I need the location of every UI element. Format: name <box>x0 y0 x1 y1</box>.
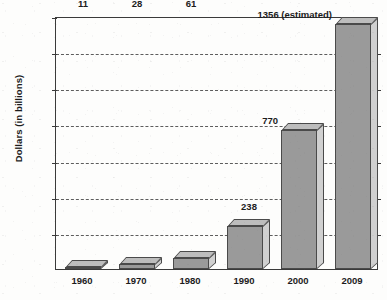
bar-1990-side <box>263 220 270 269</box>
plot-area: 1400 1200 1000 800 600 400 200 <box>55 17 378 270</box>
bar-1960-front <box>65 267 101 269</box>
x-tick-label-1970: 1970 <box>125 275 146 286</box>
bar-value-1960: 11 <box>78 0 88 9</box>
plot-inner: 1400 1200 1000 800 600 400 200 <box>56 18 377 269</box>
y-tick-mark-600 <box>52 163 57 164</box>
gridline-1200 <box>56 54 377 55</box>
bar-value-1980: 61 <box>186 0 197 9</box>
y-axis-title: Dollars (in billions) <box>13 49 24 189</box>
gridline-800 <box>56 126 377 127</box>
bar-value-1970: 28 <box>132 0 143 9</box>
y-tick-mark-1000 <box>52 90 57 91</box>
bar-1990-front <box>227 226 263 269</box>
x-tick-label-1980: 1980 <box>179 275 200 286</box>
y-tick-mark-400 <box>52 199 57 200</box>
bar-value-1990: 238 <box>241 201 257 212</box>
bar-2009-front <box>335 24 371 269</box>
bar-value-2009: 1356 (estimated) <box>258 9 332 20</box>
bar-value-2000: 770 <box>262 115 278 126</box>
x-tick-label-2000: 2000 <box>287 275 308 286</box>
bar-2009-side <box>371 18 378 269</box>
gridline-600 <box>56 163 377 164</box>
x-tick-label-1960: 1960 <box>71 275 92 286</box>
y-tick-mark-800 <box>52 126 57 127</box>
gridline-400 <box>56 199 377 200</box>
y-tick-mark-1200 <box>52 54 57 55</box>
bar-2000-side <box>317 124 324 269</box>
y-tick-mark-200 <box>52 235 57 236</box>
y-tick-mark-1400 <box>52 18 57 19</box>
x-tick-label-1990: 1990 <box>233 275 254 286</box>
bar-1980-front <box>173 258 209 269</box>
x-tick-label-2009: 2009 <box>341 275 362 286</box>
bar-1970-front <box>119 264 155 269</box>
gridline-200 <box>56 235 377 236</box>
bar-2000-front <box>281 130 317 269</box>
bar-chart: Dollars (in billions) 1400 1200 1000 800… <box>0 0 387 300</box>
gridline-1000 <box>56 90 377 91</box>
